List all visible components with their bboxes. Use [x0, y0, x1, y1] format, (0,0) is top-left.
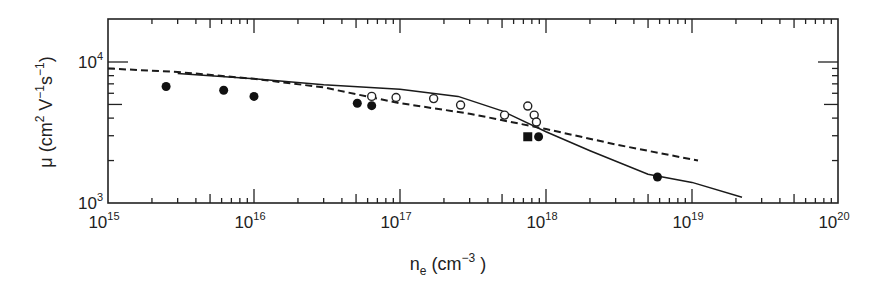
open-circle-marker — [524, 102, 532, 110]
open-circle-marker — [457, 101, 465, 109]
filled-circle-marker — [219, 86, 228, 95]
filled-circle-marker — [367, 101, 376, 110]
x-axis-title: ne (cm−3 ) — [410, 251, 486, 278]
curves — [108, 69, 742, 198]
mobility-chart: 101510161017101810191020103104 ne (cm−3 … — [0, 0, 889, 294]
dashed-curve — [108, 69, 698, 161]
filled-circle-marker — [353, 99, 362, 108]
x-tick-label: 1017 — [380, 210, 411, 232]
open-circle-marker — [430, 95, 438, 103]
filled-circle-marker — [534, 132, 543, 141]
y-tick-label: 104 — [78, 50, 103, 72]
x-tick-label: 1016 — [234, 210, 265, 232]
filled-circle-marker — [162, 82, 171, 91]
open-circle-marker — [368, 92, 376, 100]
plot-border — [108, 19, 838, 203]
filled-circle-marker — [250, 92, 259, 101]
tick-labels: 101510161017101810191020103104 — [78, 50, 850, 232]
open-circle-marker — [532, 118, 540, 126]
filled-square-marker — [523, 132, 532, 141]
axis-ticks — [108, 19, 838, 203]
x-tick-label: 1019 — [672, 210, 703, 232]
y-axis-title: μ (cm2 V−1s−1) — [33, 56, 56, 167]
open-circle-marker — [392, 94, 400, 102]
plot-frame — [108, 19, 838, 203]
x-tick-label: 1020 — [818, 210, 849, 232]
data-markers — [162, 82, 662, 181]
open-circle-marker — [501, 111, 509, 119]
x-tick-label: 1018 — [526, 210, 557, 232]
filled-circle-marker — [653, 172, 662, 181]
x-tick-label: 1015 — [88, 210, 119, 232]
y-tick-label: 103 — [78, 191, 103, 213]
